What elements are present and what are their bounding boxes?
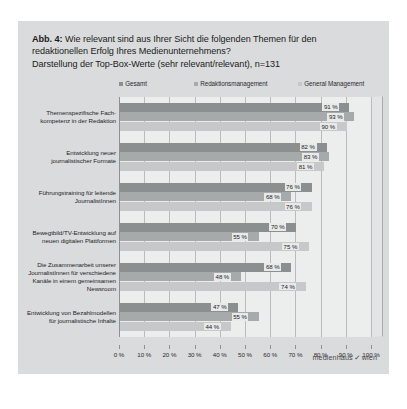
- gridline-40: [220, 97, 221, 337]
- legend-label-gesamt: Gesamt: [125, 80, 147, 87]
- figure-number: Abb. 4:: [32, 34, 62, 44]
- bar-value-label: 93 %: [327, 113, 344, 121]
- gridline-30: [195, 97, 196, 337]
- gridline-20: [169, 97, 170, 337]
- bar-value-label: 47 %: [211, 303, 228, 311]
- plot-right-edge: [371, 96, 383, 337]
- brand-text-right: wien: [362, 353, 377, 362]
- x-tick-mark: [346, 345, 347, 349]
- legend-item-gesamt: Gesamt: [119, 80, 147, 87]
- legend-item-redaktionsmanagement: Redaktionsmanagement: [194, 80, 267, 87]
- gridline-10: [144, 97, 145, 337]
- bar-value-label: 68 %: [264, 263, 281, 271]
- category-label-line: JournalistInnen für verschiedene: [20, 269, 116, 277]
- gridline-90: [346, 97, 347, 337]
- bar-value-label: 70 %: [269, 223, 286, 231]
- x-tick-mark: [195, 345, 196, 349]
- x-tick-mark: [270, 345, 271, 349]
- bar-value-label: 75 %: [282, 243, 299, 251]
- x-tick-label: 50 %: [238, 351, 252, 358]
- x-tick-mark: [295, 345, 296, 349]
- category-label-line: kompetenz in der Redaktion: [20, 117, 116, 125]
- bar-value-label: 81 %: [297, 163, 314, 171]
- x-tick-label: 30 %: [188, 351, 202, 358]
- x-tick-mark: [321, 345, 322, 349]
- x-tick-mark: [144, 345, 145, 349]
- bar: [120, 162, 324, 171]
- bar-value-label: 91 %: [322, 103, 339, 111]
- category-label-line: Führungstraining für leitende: [20, 189, 116, 197]
- category-label-line: journalistischer Formate: [20, 157, 116, 165]
- x-tick-mark: [245, 345, 246, 349]
- category-label: Themenspezifische Fach-kompetenz in der …: [20, 109, 116, 125]
- bar-value-label: 74 %: [279, 283, 296, 291]
- x-tick-label: 70 %: [288, 351, 302, 358]
- bar: [120, 202, 312, 211]
- brand-text-left: medienhaus: [313, 353, 353, 362]
- category-label: Bewegtbild/TV-Entwicklung aufneuen digit…: [20, 229, 116, 245]
- bar-value-label: 68 %: [264, 193, 281, 201]
- category-label: Entwicklung neuerjournalistischer Format…: [20, 149, 116, 165]
- legend-label-general-management: General Management: [304, 80, 364, 87]
- bar-value-label: 48 %: [214, 273, 231, 281]
- bar: [120, 103, 349, 112]
- bar-value-label: 83 %: [302, 153, 319, 161]
- x-tick-mark: [371, 345, 372, 349]
- legend-item-general-management: General Management: [298, 80, 364, 87]
- category-label-line: Entwicklung neuer: [20, 149, 116, 157]
- bar: [120, 143, 327, 152]
- x-tick-mark: [220, 345, 221, 349]
- x-tick-mark: [119, 345, 120, 349]
- category-label-line: Die Zusammenarbeit unserer: [20, 261, 116, 269]
- bar: [120, 122, 347, 131]
- category-label-line: Kanäle in einem gemeinsamen: [20, 277, 116, 285]
- gridline-80: [321, 97, 322, 337]
- figure-panel: Abb. 4: Wie relevant sind aus Ihrer Sich…: [18, 21, 389, 374]
- legend-swatch-gesamt: [119, 82, 123, 86]
- gridline-100: [371, 97, 372, 337]
- x-tick-label: 10 %: [137, 351, 151, 358]
- category-label-line: Themenspezifische Fach-: [20, 109, 116, 117]
- x-tick-label: 0 %: [114, 351, 125, 358]
- category-label-line: JournalistInnen: [20, 197, 116, 205]
- figure-title: Abb. 4: Wie relevant sind aus Ihrer Sich…: [32, 33, 377, 70]
- bar-value-label: 55 %: [232, 313, 249, 321]
- bar-value-label: 55 %: [232, 233, 249, 241]
- gridline-0: [119, 97, 120, 337]
- title-line-2: redaktionellen Erfolg Ihres Medienuntern…: [32, 45, 377, 57]
- bar: [120, 183, 312, 192]
- chart-legend: Gesamt Redaktionsmanagement General Mana…: [18, 80, 389, 92]
- x-tick-mark: [169, 345, 170, 349]
- bar-value-label: 82 %: [300, 143, 317, 151]
- bar: [120, 152, 329, 161]
- legend-swatch-redaktionsmanagement: [194, 82, 198, 86]
- category-label-line: für journalistische Inhalte: [20, 317, 116, 325]
- bar: [120, 242, 309, 251]
- category-label-line: neuen digitalen Plattformen: [20, 237, 116, 245]
- title-line-1: Abb. 4: Wie relevant sind aus Ihrer Sich…: [32, 33, 377, 45]
- check-icon: ✓: [354, 353, 361, 362]
- category-label-line: Newsroom: [20, 285, 116, 293]
- gridline-70: [295, 97, 296, 337]
- gridline-50: [245, 97, 246, 337]
- x-tick-label: 60 %: [263, 351, 277, 358]
- gridline-60: [270, 97, 271, 337]
- brand-logo: medienhaus✓wien: [313, 353, 377, 362]
- title-text-1: Wie relevant sind aus Ihrer Sicht die fo…: [65, 34, 317, 44]
- x-tick-label: 40 %: [213, 351, 227, 358]
- title-line-3: Darstellung der Top-Box-Werte (sehr rele…: [32, 58, 377, 70]
- category-label: Führungstraining für leitendeJournalistI…: [20, 189, 116, 205]
- bar-value-label: 76 %: [285, 203, 302, 211]
- bar-value-label: 44 %: [204, 323, 221, 331]
- category-label: Die Zusammenarbeit unsererJournalistInne…: [20, 261, 116, 293]
- legend-swatch-general-management: [298, 82, 302, 86]
- plot-area: Themenspezifische Fach-kompetenz in der …: [18, 93, 389, 351]
- bar-value-label: 76 %: [285, 183, 302, 191]
- category-label-line: Entwicklung von Bezahlmodellen: [20, 309, 116, 317]
- bar: [120, 112, 354, 121]
- category-label: Entwicklung von Bezahlmodellenfür journa…: [20, 309, 116, 325]
- bar-value-label: 90 %: [320, 123, 337, 131]
- category-label-line: Bewegtbild/TV-Entwicklung auf: [20, 229, 116, 237]
- legend-label-redaktionsmanagement: Redaktionsmanagement: [200, 80, 267, 87]
- x-tick-label: 20 %: [162, 351, 176, 358]
